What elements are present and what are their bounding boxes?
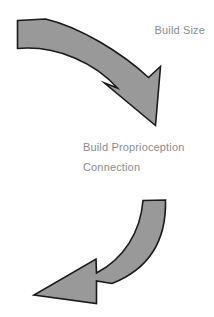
label-line-connection: Connection xyxy=(83,161,184,174)
label-line-build-proprioception: Build Proprioception xyxy=(83,141,184,154)
top-arrow-shape xyxy=(18,19,161,126)
cycle-diagram: Build Size Build Proprioception Connecti… xyxy=(0,0,214,317)
bottom-arrow-shape xyxy=(34,200,166,304)
label-build-size: Build Size xyxy=(155,24,205,37)
label-build-proprioception-connection: Build Proprioception Connection xyxy=(83,141,184,174)
